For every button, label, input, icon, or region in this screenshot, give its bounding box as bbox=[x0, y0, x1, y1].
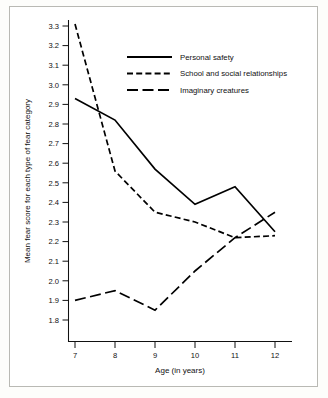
x-tick-marks bbox=[75, 342, 275, 349]
figure-container: 1.81.92.02.12.22.32.42.52.62.72.82.93.03… bbox=[0, 0, 328, 398]
y-tick-label: 2.3 bbox=[48, 218, 59, 227]
series-line-0 bbox=[75, 99, 275, 232]
y-tick-label: 1.9 bbox=[48, 296, 59, 305]
y-tick-label: 2.1 bbox=[48, 257, 59, 266]
y-tick-labels: 1.81.92.02.12.22.32.42.52.62.72.82.93.03… bbox=[48, 22, 59, 325]
y-tick-label: 3.3 bbox=[48, 22, 59, 31]
y-axis: 1.81.92.02.12.22.32.42.52.62.72.82.93.03… bbox=[23, 20, 69, 342]
x-tick-label: 10 bbox=[191, 351, 199, 360]
y-tick-label: 2.0 bbox=[48, 277, 59, 286]
legend-label-1: School and social relationships bbox=[180, 69, 287, 78]
x-axis: 789101112 Age (in years) bbox=[69, 342, 293, 376]
x-tick-label: 8 bbox=[113, 351, 117, 360]
y-tick-label: 1.8 bbox=[48, 316, 59, 325]
legend-label-2: Imaginary creatures bbox=[180, 86, 249, 95]
y-tick-label: 2.5 bbox=[48, 179, 59, 188]
y-tick-marks bbox=[63, 26, 69, 320]
y-tick-label: 2.8 bbox=[48, 120, 59, 129]
y-tick-label: 3.0 bbox=[48, 81, 59, 90]
chart-legend: Personal safetySchool and social relatio… bbox=[127, 53, 287, 95]
x-tick-label: 7 bbox=[73, 351, 77, 360]
y-tick-label: 2.4 bbox=[48, 198, 59, 207]
y-axis-title: Mean fear score for each type of fear ca… bbox=[23, 99, 32, 263]
y-tick-label: 2.6 bbox=[48, 159, 59, 168]
series-line-2 bbox=[75, 212, 275, 310]
series-line-1 bbox=[75, 24, 275, 238]
x-tick-label: 11 bbox=[231, 351, 239, 360]
y-tick-label: 2.2 bbox=[48, 237, 59, 246]
legend-label-0: Personal safety bbox=[180, 53, 234, 62]
y-tick-label: 2.9 bbox=[48, 100, 59, 109]
x-axis-title: Age (in years) bbox=[155, 366, 205, 375]
x-tick-label: 12 bbox=[271, 351, 279, 360]
y-tick-label: 2.7 bbox=[48, 139, 59, 148]
y-tick-label: 3.1 bbox=[48, 61, 59, 70]
x-tick-labels: 789101112 bbox=[73, 351, 279, 360]
line-chart: 1.81.92.02.12.22.32.42.52.62.72.82.93.03… bbox=[0, 0, 328, 398]
y-tick-label: 3.2 bbox=[48, 41, 59, 50]
x-tick-label: 9 bbox=[153, 351, 157, 360]
data-series-group bbox=[75, 24, 275, 310]
